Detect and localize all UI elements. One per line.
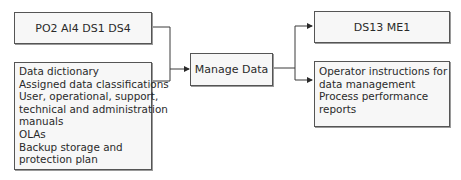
input-item: technical and administration xyxy=(19,103,147,116)
input-item: Backup storage and xyxy=(19,141,147,154)
input-item: User, operational, support, xyxy=(19,90,147,103)
output-box-references: DS13 ME1 xyxy=(314,11,450,43)
process-box-manage-data: Manage Data xyxy=(190,53,273,86)
output-item: data management xyxy=(319,78,445,91)
output-item: Operator instructions for xyxy=(319,65,445,78)
output-box-documents: Operator instructions for data managemen… xyxy=(314,61,450,127)
input-item: Assigned data classifications xyxy=(19,78,147,91)
input-box-references-label: PO2 AI4 DS1 DS4 xyxy=(35,22,130,35)
input-merge-line xyxy=(152,27,170,81)
input-box-references: PO2 AI4 DS1 DS4 xyxy=(14,12,152,44)
input-item: protection plan xyxy=(19,153,147,166)
input-box-documents: Data dictionary Assigned data classifica… xyxy=(14,62,152,170)
output-item: Process performance xyxy=(319,90,445,103)
process-label: Manage Data xyxy=(195,63,268,76)
input-item: Data dictionary xyxy=(19,65,147,78)
output-item: reports xyxy=(319,103,445,116)
input-item: OLAs xyxy=(19,128,147,141)
input-item: manuals xyxy=(19,115,147,128)
output-box-references-label: DS13 ME1 xyxy=(354,21,410,34)
